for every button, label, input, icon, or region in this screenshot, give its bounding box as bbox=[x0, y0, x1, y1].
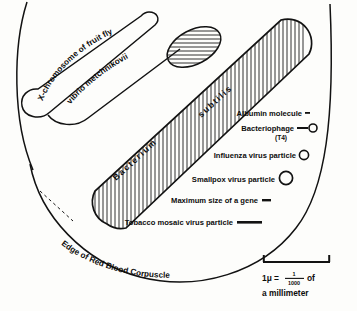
legend-label-influenza: Influenza virus particle bbox=[214, 151, 296, 160]
legend-label-albumin: Albumin molecule bbox=[237, 109, 302, 118]
marker-dash-tiny bbox=[305, 112, 310, 114]
scale-caption: 1μ = 1 1000 of a millimeter bbox=[262, 271, 315, 298]
legend-item-bacteriophage: Bacteriophage (T4) bbox=[241, 124, 317, 142]
legend-label-tobacco-mosaic: Tobacco mosaic virus particle bbox=[125, 218, 233, 227]
marker-circle-small bbox=[299, 150, 308, 159]
scale-of-word: of bbox=[307, 273, 315, 283]
legend-label-max-gene: Maximum size of a gene bbox=[171, 196, 258, 205]
marker-dash-short bbox=[262, 199, 271, 201]
bacterium-division-dashed-line bbox=[40, 191, 73, 221]
label-red-blood-corpuscle: Edge of Red Blood Corpuscle bbox=[60, 239, 171, 280]
legend-item-tobacco-mosaic: Tobacco mosaic virus particle bbox=[125, 218, 262, 227]
legend-item-max-gene: Maximum size of a gene bbox=[171, 196, 271, 205]
diagram-canvas: X-chromosome of fruit fly vibrio metchni… bbox=[0, 0, 357, 311]
legend-sublabel-bacteriophage-t4: (T4) bbox=[275, 134, 287, 142]
scale-suffix: a millimeter bbox=[262, 288, 309, 298]
scale-fraction-numerator: 1 bbox=[293, 271, 296, 277]
marker-phage-tail bbox=[297, 127, 308, 129]
legend-item-influenza: Influenza virus particle bbox=[214, 150, 309, 160]
vibrio-metchnikovii-shape bbox=[160, 18, 228, 75]
legend-item-albumin-molecule: Albumin molecule bbox=[237, 109, 310, 118]
scale-unit: 1μ = bbox=[262, 273, 279, 283]
marker-phage-head bbox=[309, 124, 317, 132]
scale-fraction-denominator: 1000 bbox=[288, 280, 300, 286]
scale-bar bbox=[263, 255, 330, 262]
legend-label-bacteriophage: Bacteriophage bbox=[241, 124, 294, 133]
red-blood-corpuscle-arc bbox=[17, 2, 331, 282]
marker-circle-large bbox=[279, 171, 292, 184]
legend-item-smallpox: Smallpox virus particle bbox=[192, 171, 293, 184]
legend-label-smallpox: Smallpox virus particle bbox=[192, 175, 275, 184]
size-comparison-diagram: X-chromosome of fruit fly vibrio metchni… bbox=[0, 0, 357, 311]
marker-bar-long bbox=[237, 221, 262, 224]
